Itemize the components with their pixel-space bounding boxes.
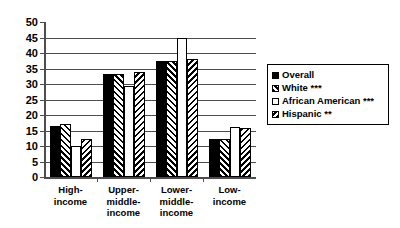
y-tick-25: 25 [12, 95, 38, 105]
bar-high-income-overall [50, 126, 61, 177]
bar-group-lower-middle-income [150, 22, 203, 177]
x-label-line: Upper- [97, 184, 150, 196]
y-tick-5: 5 [12, 157, 38, 167]
x-label-line: middle- [150, 196, 203, 208]
bar-lower-middle-income-hispanic [187, 59, 198, 177]
x-axis-divider [203, 177, 204, 182]
bar-low-income-hispanic [240, 128, 251, 177]
bar-chart: 50 45 40 35 30 25 20 15 10 5 0 [0, 0, 400, 228]
legend-label-african-american: African American *** [282, 96, 374, 106]
x-axis-divider [97, 177, 98, 182]
legend-label-hispanic: Hispanic ** [282, 109, 332, 119]
x-label-low-income: Low-income [203, 184, 256, 207]
y-tick-0: 0 [12, 172, 38, 182]
bar-group-upper-middle-income [97, 22, 150, 177]
y-tick-40: 40 [12, 48, 38, 58]
x-axis-divider [150, 177, 151, 182]
bar-high-income-hispanic [81, 139, 92, 177]
legend-item-overall: Overall [272, 69, 385, 81]
legend-swatch-overall-icon [272, 72, 279, 79]
legend-item-hispanic: Hispanic ** [272, 108, 385, 120]
legend-swatch-hispanic-icon [272, 111, 279, 118]
bar-high-income-white [60, 124, 71, 177]
y-tick-30: 30 [12, 79, 38, 89]
bar-upper-middle-income-overall [103, 74, 114, 177]
plot-area [44, 22, 256, 177]
legend-label-overall: Overall [282, 70, 314, 80]
y-tick-10: 10 [12, 141, 38, 151]
legend-item-white: White *** [272, 82, 385, 94]
legend-swatch-african-american-icon [272, 98, 279, 105]
tick-0 [40, 177, 44, 178]
x-label-line: middle- [97, 196, 150, 208]
y-tick-20: 20 [12, 110, 38, 120]
bar-lower-middle-income-overall [156, 61, 167, 177]
x-label-high-income: High-income [44, 184, 97, 207]
y-tick-35: 35 [12, 64, 38, 74]
bar-upper-middle-income-white [113, 74, 124, 177]
y-tick-45: 45 [12, 33, 38, 43]
x-label-line: income [97, 207, 150, 219]
x-label-line: Lower- [150, 184, 203, 196]
y-axis-tick-labels: 50 45 40 35 30 25 20 15 10 5 0 [8, 0, 38, 228]
y-tick-15: 15 [12, 126, 38, 136]
bar-lower-middle-income-white [166, 61, 177, 177]
bar-high-income-african-american [71, 146, 82, 177]
legend-label-white: White *** [282, 83, 322, 93]
bar-group-high-income [44, 22, 97, 177]
bar-lower-middle-income-african-american [177, 38, 188, 178]
x-label-line: income [44, 196, 97, 208]
x-label-line: High- [44, 184, 97, 196]
bar-upper-middle-income-african-american [124, 86, 135, 177]
x-label-line: income [150, 207, 203, 219]
bar-low-income-african-american [230, 127, 241, 177]
x-label-line: Low- [203, 184, 256, 196]
legend-swatch-white-icon [272, 85, 279, 92]
legend-item-african-american: African American *** [272, 95, 385, 107]
bar-group-low-income [203, 22, 256, 177]
y-tick-50: 50 [12, 17, 38, 27]
bar-low-income-white [219, 139, 230, 177]
x-label-lower-middle-income: Lower-middle-income [150, 184, 203, 219]
legend: Overall White *** African American *** H… [267, 64, 389, 125]
x-axis-category-labels: High-income Upper-middle-income Lower-mi… [44, 184, 256, 228]
x-label-upper-middle-income: Upper-middle-income [97, 184, 150, 219]
bar-low-income-overall [209, 139, 220, 177]
bar-upper-middle-income-hispanic [134, 72, 145, 177]
x-label-line: income [203, 196, 256, 208]
